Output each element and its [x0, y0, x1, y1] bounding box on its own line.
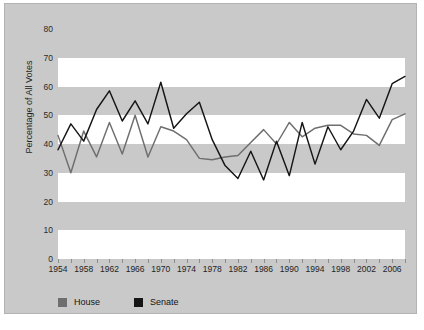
x-tick-mark [264, 259, 265, 263]
x-tick-mark [174, 259, 175, 263]
x-tick-label: 1974 [177, 265, 196, 274]
x-tick-mark [71, 259, 72, 263]
x-tick-label: 1978 [203, 265, 222, 274]
x-tick-mark [84, 259, 85, 263]
y-tick-label: 80 [44, 25, 53, 34]
x-tick-mark [289, 259, 290, 263]
x-tick-mark [392, 259, 393, 263]
x-tick-label: 1982 [228, 265, 247, 274]
legend-item[interactable]: Senate [134, 298, 179, 307]
x-tick-label: 2006 [383, 265, 402, 274]
x-tick-mark [135, 259, 136, 263]
y-tick-label: 10 [44, 226, 53, 235]
x-tick-mark [199, 259, 200, 263]
y-axis-title: Percentage of All Votes [24, 37, 34, 177]
chart-legend: HouseSenate [58, 295, 213, 309]
legend-swatch-icon [134, 298, 143, 307]
x-tick-label: 1994 [306, 265, 325, 274]
legend-swatch-icon [58, 298, 67, 307]
y-axis-tick-labels: 80706050403020100 [31, 29, 53, 259]
y-tick-label: 0 [48, 255, 53, 264]
x-tick-mark [122, 259, 123, 263]
x-tick-mark [161, 259, 162, 263]
x-tick-label: 1998 [331, 265, 350, 274]
x-tick-mark [251, 259, 252, 263]
x-tick-mark [328, 259, 329, 263]
x-tick-label: 1970 [151, 265, 170, 274]
x-tick-mark [238, 259, 239, 263]
x-tick-mark [341, 259, 342, 263]
x-tick-mark [315, 259, 316, 263]
x-tick-mark [366, 259, 367, 263]
x-tick-label: 1966 [126, 265, 145, 274]
x-tick-label: 2002 [357, 265, 376, 274]
x-tick-mark [405, 259, 406, 263]
chart-figure: 80706050403020100 Percentage of All Vote… [0, 0, 424, 330]
legend-label: Senate [150, 298, 179, 307]
x-tick-label: 1986 [254, 265, 273, 274]
plot-area [58, 29, 405, 259]
y-tick-label: 50 [44, 111, 53, 120]
series-layer [58, 29, 405, 259]
x-tick-mark [97, 259, 98, 263]
series-line-senate [58, 76, 405, 180]
x-tick-mark [379, 259, 380, 263]
y-tick-label: 30 [44, 169, 53, 178]
x-tick-label: 1958 [74, 265, 93, 274]
x-tick-label: 1990 [280, 265, 299, 274]
y-tick-label: 70 [44, 54, 53, 63]
x-tick-mark [276, 259, 277, 263]
x-tick-mark [225, 259, 226, 263]
chart-panel: 80706050403020100 Percentage of All Vote… [4, 3, 417, 314]
x-tick-mark [212, 259, 213, 263]
x-tick-mark [187, 259, 188, 263]
x-tick-mark [58, 259, 59, 263]
x-tick-label: 1954 [49, 265, 68, 274]
x-axis-tick-labels: 1954195819621966197019741978198219861990… [58, 265, 405, 279]
y-tick-label: 20 [44, 198, 53, 207]
legend-label: House [74, 298, 100, 307]
x-tick-label: 1962 [100, 265, 119, 274]
x-tick-mark [354, 259, 355, 263]
x-tick-mark [148, 259, 149, 263]
y-tick-label: 40 [44, 140, 53, 149]
y-tick-label: 60 [44, 83, 53, 92]
legend-item[interactable]: House [58, 298, 100, 307]
x-tick-mark [302, 259, 303, 263]
series-line-house [58, 114, 405, 173]
x-tick-mark [109, 259, 110, 263]
